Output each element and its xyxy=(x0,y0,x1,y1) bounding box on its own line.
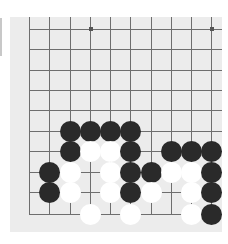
white-stone xyxy=(141,182,162,203)
black-stone xyxy=(201,141,222,162)
grid-line-vertical xyxy=(29,17,30,215)
black-stone xyxy=(141,162,162,183)
white-stone xyxy=(100,162,121,183)
black-stone xyxy=(60,141,81,162)
black-stone xyxy=(60,121,81,142)
white-stone xyxy=(181,204,202,225)
white-stone xyxy=(80,141,101,162)
grid-line-horizontal xyxy=(29,70,222,71)
grid-line-vertical xyxy=(90,17,91,215)
black-stone xyxy=(120,121,141,142)
black-stone xyxy=(120,182,141,203)
go-board[interactable] xyxy=(10,17,222,232)
black-stone xyxy=(201,182,222,203)
grid-line-horizontal xyxy=(29,90,222,91)
white-stone xyxy=(120,204,141,225)
white-stone xyxy=(181,182,202,203)
white-stone xyxy=(100,182,121,203)
black-stone xyxy=(120,162,141,183)
black-stone xyxy=(80,121,101,142)
black-stone xyxy=(201,162,222,183)
black-stone xyxy=(161,141,182,162)
white-stone xyxy=(60,182,81,203)
grid-line-vertical xyxy=(171,17,172,215)
black-stone xyxy=(120,141,141,162)
white-stone xyxy=(100,141,121,162)
black-stone xyxy=(39,182,60,203)
black-stone xyxy=(181,141,202,162)
white-stone xyxy=(161,162,182,183)
star-point xyxy=(89,27,93,31)
side-edge-bar xyxy=(0,18,2,56)
white-stone xyxy=(181,162,202,183)
white-stone xyxy=(80,204,101,225)
black-stone xyxy=(100,121,121,142)
grid-line-horizontal xyxy=(29,49,222,50)
black-stone xyxy=(39,162,60,183)
black-stone xyxy=(201,204,222,225)
star-point xyxy=(210,27,214,31)
white-stone xyxy=(60,162,81,183)
grid-line-horizontal xyxy=(29,110,222,111)
grid-line-horizontal xyxy=(29,29,222,30)
